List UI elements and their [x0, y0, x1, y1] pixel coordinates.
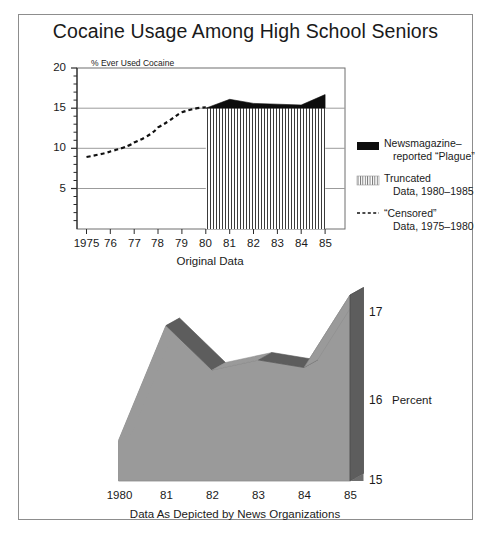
solid-black-swatch-icon: [357, 142, 379, 150]
top-xtick-83: 83: [264, 237, 291, 249]
legend-item-plague-line2: reported “Plague”: [384, 150, 475, 163]
top-xtick-85: 85: [312, 237, 339, 249]
truncated-data-region: [206, 108, 325, 229]
legend-item-truncated-line1: Truncated: [384, 172, 474, 185]
top-xtick-78: 78: [144, 237, 171, 249]
bottom-xtick-85: 85: [337, 489, 364, 501]
bottom-xtick-83: 83: [245, 489, 272, 501]
legend-item-censored-line1: “Censored”: [384, 207, 474, 220]
area-right-face: [350, 288, 364, 482]
area-front-face: [119, 295, 351, 481]
bottom-ytick-17: 17: [369, 305, 382, 319]
hatch-swatch-icon: [357, 176, 379, 185]
top-x-axis-title: Original Data: [135, 255, 285, 267]
top-xtick-82: 82: [240, 237, 267, 249]
legend-item-truncated: Truncated Data, 1980–1985: [384, 172, 474, 197]
legend-item-censored-line2: Data, 1975–1980: [384, 220, 474, 233]
top-ytick-10: 10: [40, 141, 66, 153]
top-ytick-5: 5: [40, 182, 66, 194]
bottom-y-axis-title: Percent: [392, 394, 432, 406]
top-chart: [71, 68, 345, 234]
top-y-axis-title: % Ever Used Cocaine: [91, 58, 174, 68]
top-xtick-81: 81: [216, 237, 243, 249]
bottom-ytick-16: 16: [369, 393, 382, 407]
top-x-ticks: [87, 229, 326, 234]
bottom-ytick-15: 15: [369, 473, 382, 487]
top-chart-legend: [357, 142, 379, 213]
bottom-xtick-82: 82: [199, 489, 226, 501]
top-xtick-84: 84: [288, 237, 315, 249]
top-y-major-ticks: [71, 68, 77, 189]
legend-item-censored: “Censored” Data, 1975–1980: [384, 207, 474, 232]
legend-item-truncated-line2: Data, 1980–1985: [384, 185, 474, 198]
top-ytick-20: 20: [40, 61, 66, 73]
bottom-xtick-84: 84: [291, 489, 318, 501]
legend-item-plague-line1: Newsmagazine–: [384, 137, 475, 150]
bottom-xtick-1980: 1980: [102, 489, 137, 501]
bottom-chart: [119, 288, 364, 482]
figure-canvas: [0, 0, 493, 549]
bottom-x-axis-title: Data As Depicted by News Organizations: [110, 508, 360, 520]
top-xtick-79: 79: [168, 237, 195, 249]
legend-item-plague: Newsmagazine– reported “Plague”: [384, 137, 475, 162]
top-ytick-15: 15: [40, 101, 66, 113]
bottom-xtick-81: 81: [153, 489, 180, 501]
top-xtick-76: 76: [97, 237, 124, 249]
top-xtick-80: 80: [192, 237, 219, 249]
